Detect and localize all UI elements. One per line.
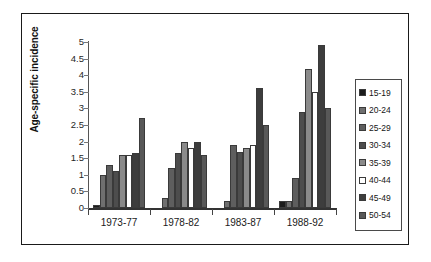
y-axis-tick-label: 3: [44, 103, 84, 113]
legend-swatch-icon: [359, 142, 366, 149]
y-axis-tick-mark: [84, 108, 89, 109]
y-axis-tick-label: 4.5: [44, 54, 84, 64]
legend-item: 45-49: [359, 189, 398, 207]
y-axis-tick-label: 0.5: [44, 186, 84, 196]
y-axis-tick-mark: [84, 125, 89, 126]
legend-item: 50-54: [359, 207, 398, 225]
legend-item-label: 45-49: [369, 194, 391, 203]
y-axis-tick-label: 0: [44, 203, 84, 213]
x-axis-group-label: 1988-92: [270, 217, 340, 228]
y-axis-tick-labels: 00.511.522.533.544.55: [38, 0, 84, 262]
legend-item: 25-29: [359, 119, 398, 137]
y-axis-tick-mark: [84, 158, 89, 159]
bar: [201, 155, 208, 208]
legend-swatch-icon: [359, 124, 366, 131]
legend-swatch-icon: [359, 89, 366, 96]
y-axis-tick-mark: [84, 92, 89, 93]
legend-item-label: 50-54: [369, 211, 391, 220]
bar: [139, 118, 146, 208]
y-axis-tick-label: 5: [44, 37, 84, 47]
legend-item-label: 25-29: [369, 124, 391, 133]
legend-item-label: 20-24: [369, 106, 391, 115]
legend-item-label: 35-39: [369, 159, 391, 168]
bar-group: [93, 42, 145, 208]
y-axis-tick-mark: [84, 42, 89, 43]
bar: [263, 125, 270, 208]
legend-item-label: 15-19: [369, 89, 391, 98]
legend-swatch-icon: [359, 177, 366, 184]
legend-item: 15-19: [359, 84, 398, 102]
legend-swatch-icon: [359, 159, 366, 166]
x-axis-tick-mark: [88, 209, 89, 215]
y-axis-tick-mark: [84, 142, 89, 143]
y-axis-tick-label: 4: [44, 70, 84, 80]
legend-swatch-icon: [359, 212, 366, 219]
x-axis-group-label: 1978-82: [146, 217, 216, 228]
chart-legend: 15-1920-2425-2930-3435-3940-4445-4950-54: [355, 79, 402, 231]
y-axis-tick-mark: [84, 191, 89, 192]
y-axis-tick-mark: [84, 75, 89, 76]
x-axis-tick-mark: [274, 209, 275, 215]
legend-swatch-icon: [359, 107, 366, 114]
x-axis-tick-mark: [212, 209, 213, 215]
legend-item: 30-34: [359, 137, 398, 155]
bar: [325, 108, 332, 208]
y-axis-tick-label: 2: [44, 137, 84, 147]
legend-item-label: 40-44: [369, 176, 391, 185]
x-axis-tick-mark: [150, 209, 151, 215]
plot-area: [88, 42, 336, 208]
bar-group: [217, 42, 269, 208]
bar-group: [155, 42, 207, 208]
y-axis-tick-label: 3.5: [44, 87, 84, 97]
y-axis-tick-mark: [84, 175, 89, 176]
chart-figure: Age-specific incidence 00.511.522.533.54…: [0, 0, 431, 262]
y-axis-tick-mark: [84, 59, 89, 60]
y-axis-tick-label: 1.5: [44, 153, 84, 163]
legend-item-label: 30-34: [369, 141, 391, 150]
legend-item: 40-44: [359, 172, 398, 190]
legend-swatch-icon: [359, 194, 366, 201]
y-axis-tick-label: 2.5: [44, 120, 84, 130]
x-axis-tick-mark: [336, 209, 337, 215]
legend-item: 35-39: [359, 154, 398, 172]
x-axis-group-label: 1973-77: [84, 217, 154, 228]
y-axis-tick-label: 1: [44, 170, 84, 180]
bar-group: [279, 42, 331, 208]
y-axis-tick-mark: [84, 208, 89, 209]
legend-item: 20-24: [359, 102, 398, 120]
x-axis-group-label: 1983-87: [208, 217, 278, 228]
